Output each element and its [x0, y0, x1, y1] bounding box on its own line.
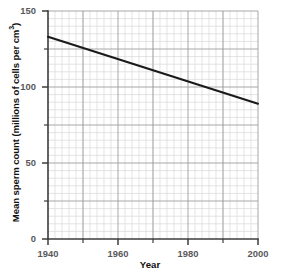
- y-axis-title: Mean sperm count (millions of cells per …: [10, 8, 21, 238]
- y-tick-label-150: 150: [2, 5, 36, 16]
- y-tick-label-100: 100: [2, 81, 36, 92]
- x-axis-title: Year: [40, 259, 260, 270]
- x-tick-label-1960: 1960: [98, 248, 138, 259]
- y-tick-label-50: 50: [2, 157, 36, 168]
- x-tick-label-2000: 2000: [238, 248, 278, 259]
- y-axis-title-superscript: 3: [8, 26, 15, 30]
- line-chart-plot: [0, 0, 281, 274]
- x-tick-label-1980: 1980: [168, 248, 208, 259]
- y-axis-title-text: Mean sperm count (millions of cells per …: [10, 30, 21, 223]
- x-tick-label-1940: 1940: [28, 248, 68, 259]
- y-axis-title-close: ): [10, 23, 21, 26]
- chart-container: Mean sperm count (millions of cells per …: [0, 0, 281, 274]
- y-tick-label-0: 0: [2, 233, 36, 244]
